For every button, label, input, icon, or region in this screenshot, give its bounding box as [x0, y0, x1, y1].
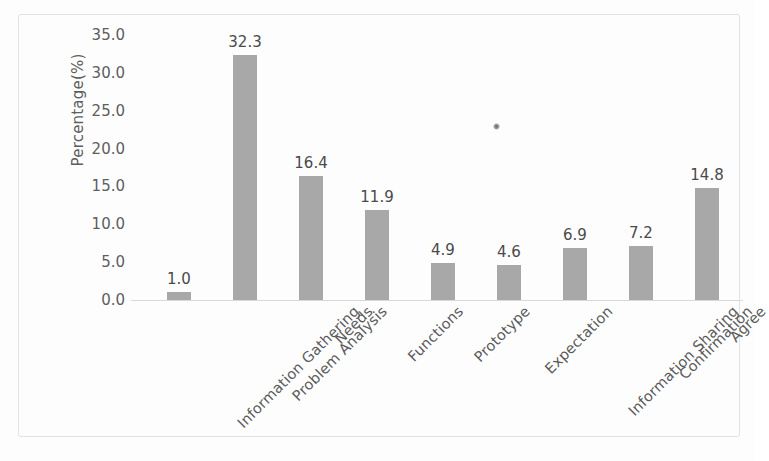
x-category-label: Confirmation — [676, 303, 755, 382]
x-axis-category-labels: Information GatheringProblem AnalysisNee… — [131, 303, 751, 453]
bar[interactable] — [299, 176, 323, 300]
bar[interactable] — [167, 292, 191, 300]
x-category-label: Information Sharing — [625, 303, 741, 419]
bar-group: 16.4 — [278, 35, 344, 300]
bar-group: 6.9 — [542, 35, 608, 300]
x-category-label: Prototype — [471, 303, 533, 365]
bar-value-label: 14.8 — [674, 166, 740, 184]
y-tick-label: 35.0 — [71, 26, 125, 44]
bar-group: 7.2 — [608, 35, 674, 300]
bar-group: 11.9 — [344, 35, 410, 300]
bar[interactable] — [497, 265, 521, 300]
y-tick-label: 10.0 — [71, 215, 125, 233]
y-tick-label: 25.0 — [71, 102, 125, 120]
bar-group: 14.8 — [674, 35, 740, 300]
plot-area: 1.032.316.411.94.94.66.97.214.8 — [131, 35, 741, 300]
y-tick-label: 30.0 — [71, 64, 125, 82]
bar-value-label: 1.0 — [146, 270, 212, 288]
bar-group: 1.0 — [146, 35, 212, 300]
scan-artifact-speck — [493, 123, 500, 130]
bar-group: 32.3 — [212, 35, 278, 300]
bar-value-label: 32.3 — [212, 33, 278, 51]
x-axis-line — [131, 300, 743, 301]
bar[interactable] — [233, 55, 257, 300]
x-category-label: Expectation — [542, 303, 616, 377]
bar-group: 4.6 — [476, 35, 542, 300]
bar[interactable] — [431, 263, 455, 300]
y-tick-label: 5.0 — [71, 253, 125, 271]
x-category-label: Functions — [405, 303, 467, 365]
bar-value-label: 6.9 — [542, 226, 608, 244]
bar-value-label: 4.6 — [476, 243, 542, 261]
bar-value-label: 4.9 — [410, 241, 476, 259]
bar[interactable] — [629, 246, 653, 301]
y-axis-tick-labels: 35.030.025.020.015.010.05.00.0 — [71, 15, 125, 461]
bar-value-label: 11.9 — [344, 188, 410, 206]
bar[interactable] — [695, 188, 719, 300]
bar-group: 4.9 — [410, 35, 476, 300]
bar[interactable] — [563, 248, 587, 300]
chart-frame: Percentage(%) 35.030.025.020.015.010.05.… — [18, 14, 740, 437]
bar-value-label: 7.2 — [608, 224, 674, 242]
x-category-label: Information Gathering — [234, 303, 362, 431]
bar-value-label: 16.4 — [278, 154, 344, 172]
y-tick-label: 0.0 — [71, 291, 125, 309]
y-tick-label: 15.0 — [71, 177, 125, 195]
y-tick-label: 20.0 — [71, 140, 125, 158]
bar[interactable] — [365, 210, 389, 300]
